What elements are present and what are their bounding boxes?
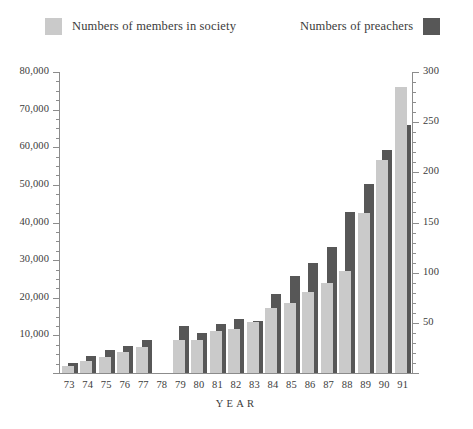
y-axis-left-major-tick <box>53 185 60 186</box>
y-axis-left-tick-label: 30,000 <box>0 253 49 264</box>
y-axis-right-minor-tick <box>412 363 416 364</box>
y-axis-left-major-tick <box>53 298 60 299</box>
legend-label-preachers: Numbers of preachers <box>300 19 413 34</box>
y-axis-left-major-tick <box>53 260 60 261</box>
y-axis-right-minor-tick <box>412 192 416 193</box>
y-axis-right-minor-tick <box>412 233 416 234</box>
legend-swatch-preachers-icon <box>423 18 440 35</box>
x-axis-tick-label: 91 <box>389 379 416 390</box>
y-axis-right-minor-tick <box>412 162 416 163</box>
legend-label-members: Numbers of members in society <box>72 19 236 34</box>
y-axis-left-tick-label: 70,000 <box>0 103 49 114</box>
bar-members <box>302 292 314 373</box>
y-axis-left-minor-tick <box>56 138 60 139</box>
y-axis-right-minor-tick <box>412 253 416 254</box>
y-axis-left-minor-tick <box>56 175 60 176</box>
y-axis-right-minor-tick <box>412 202 416 203</box>
bar-members <box>395 87 407 373</box>
y-axis-left-minor-tick <box>56 345 60 346</box>
legend-swatch-members-icon <box>45 18 62 35</box>
y-axis-left-minor-tick <box>56 270 60 271</box>
y-axis-left-minor-tick <box>56 213 60 214</box>
y-axis-left-minor-tick <box>56 317 60 318</box>
y-axis-right-major-tick <box>412 172 419 173</box>
bar-members <box>284 303 296 373</box>
bar-members <box>99 357 111 373</box>
y-axis-left-major-tick <box>53 147 60 148</box>
y-axis-right-minor-tick <box>412 112 416 113</box>
y-axis-right-major-tick <box>412 223 419 224</box>
y-axis-right-minor-tick <box>412 353 416 354</box>
y-axis-left-minor-tick <box>56 307 60 308</box>
y-axis-left-minor-tick <box>56 241 60 242</box>
y-axis-left-minor-tick <box>56 119 60 120</box>
y-axis-right-minor-tick <box>412 333 416 334</box>
y-axis-left-minor-tick <box>56 157 60 158</box>
y-axis-right-minor-tick <box>412 92 416 93</box>
x-axis-line <box>59 373 413 374</box>
y-axis-left-tick-label: 40,000 <box>0 216 49 227</box>
y-axis-right-major-tick <box>412 122 419 123</box>
bar-members <box>80 361 92 373</box>
y-axis-right-minor-tick <box>412 212 416 213</box>
y-axis-right-minor-tick <box>412 293 416 294</box>
bar-members <box>339 271 351 373</box>
y-axis-right-major-tick <box>412 373 419 374</box>
y-axis-left-minor-tick <box>56 81 60 82</box>
y-axis-left-minor-tick <box>56 204 60 205</box>
y-axis-right-tick-label: 150 <box>423 216 439 227</box>
bar-members <box>136 347 148 373</box>
y-axis-left-tick-label: 10,000 <box>0 328 49 339</box>
y-axis-right-minor-tick <box>412 132 416 133</box>
y-axis-left-major-tick <box>53 72 60 73</box>
y-axis-left-major-tick <box>53 373 60 374</box>
y-axis-right-minor-tick <box>412 142 416 143</box>
y-axis-right-minor-tick <box>412 243 416 244</box>
y-axis-left-minor-tick <box>56 128 60 129</box>
y-axis-right-minor-tick <box>412 313 416 314</box>
x-axis-title: YEAR <box>0 398 473 409</box>
y-axis-left-minor-tick <box>56 91 60 92</box>
legend-item-preachers: Numbers of preachers <box>300 18 440 35</box>
bar-members <box>358 213 370 373</box>
y-axis-left-minor-tick <box>56 232 60 233</box>
y-axis-left-minor-tick <box>56 354 60 355</box>
y-axis-right-minor-tick <box>412 152 416 153</box>
bar-chart: Numbers of members in society Numbers of… <box>0 0 473 429</box>
bar-members <box>265 308 277 373</box>
y-axis-left-major-tick <box>53 110 60 111</box>
y-axis-right-minor-tick <box>412 82 416 83</box>
bar-members <box>376 160 388 373</box>
y-axis-right-tick-label: 100 <box>423 266 439 277</box>
y-axis-left-tick-label: 60,000 <box>0 140 49 151</box>
y-axis-right-tick-label: 250 <box>423 115 439 126</box>
y-axis-right-major-tick <box>412 273 419 274</box>
y-axis-left-tick-label: 20,000 <box>0 291 49 302</box>
y-axis-left-major-tick <box>53 335 60 336</box>
bar-members <box>247 322 259 373</box>
y-axis-left-tick-label: 80,000 <box>0 65 49 76</box>
legend-item-members: Numbers of members in society <box>45 18 236 35</box>
y-axis-right-tick-label: 50 <box>423 316 434 327</box>
y-axis-left-tick-label: 50,000 <box>0 178 49 189</box>
y-axis-left-major-tick <box>53 223 60 224</box>
y-axis-right-tick-label: 300 <box>423 65 439 76</box>
y-axis-left-minor-tick <box>56 364 60 365</box>
bar-members <box>117 352 129 373</box>
y-axis-left-minor-tick <box>56 279 60 280</box>
y-axis-right-tick-label: 200 <box>423 165 439 176</box>
bar-members <box>321 283 333 373</box>
plot-area <box>60 72 412 373</box>
y-axis-right-minor-tick <box>412 182 416 183</box>
y-axis-right-minor-tick <box>412 343 416 344</box>
y-axis-right-minor-tick <box>412 283 416 284</box>
y-axis-left-minor-tick <box>56 251 60 252</box>
bar-members <box>210 331 222 373</box>
y-axis-right-major-tick <box>412 323 419 324</box>
y-axis-left-minor-tick <box>56 194 60 195</box>
y-axis-left-minor-tick <box>56 100 60 101</box>
bar-members <box>228 329 240 373</box>
y-axis-left-minor-tick <box>56 326 60 327</box>
bar-members <box>62 366 74 373</box>
y-axis-right-minor-tick <box>412 303 416 304</box>
